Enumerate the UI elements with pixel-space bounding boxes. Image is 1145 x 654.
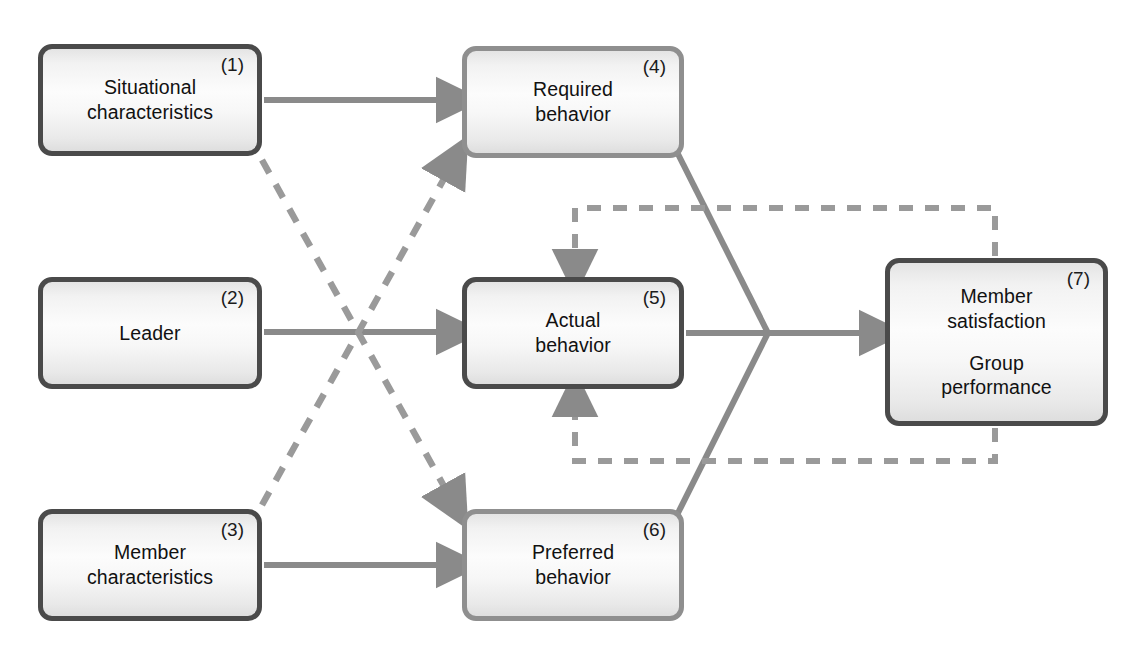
node-index-5: (5): [643, 288, 666, 307]
node-preferred-behavior[interactable]: (6) Preferred behavior: [462, 509, 684, 621]
edge-outcomes-to-actual-top-feedback: [575, 208, 995, 262]
leadership-model-diagram: (1) Situational characteristics (2) Lead…: [0, 0, 1145, 654]
edge-situational-to-preferred-dashed: [262, 160, 450, 497]
node-label-member-satisfaction: Member satisfaction: [947, 284, 1046, 334]
node-label-preferred-behavior: Preferred behavior: [532, 540, 614, 590]
node-outcomes[interactable]: (7) Member satisfaction Group performanc…: [885, 258, 1108, 426]
node-index-3: (3): [221, 520, 244, 539]
node-label-situational-characteristics: Situational characteristics: [87, 75, 213, 125]
node-leader[interactable]: (2) Leader: [38, 277, 262, 389]
node-label-actual-behavior: Actual behavior: [535, 308, 611, 358]
edge-required-to-junction: [677, 152, 768, 333]
node-index-7: (7): [1067, 269, 1090, 288]
node-required-behavior[interactable]: (4) Required behavior: [462, 46, 684, 158]
node-index-4: (4): [643, 57, 666, 76]
node-label-leader: Leader: [119, 321, 180, 346]
node-label-required-behavior: Required behavior: [533, 77, 613, 127]
node-actual-behavior[interactable]: (5) Actual behavior: [462, 277, 684, 389]
node-situational-characteristics[interactable]: (1) Situational characteristics: [38, 44, 262, 156]
edge-member-to-required-dashed: [262, 168, 450, 505]
node-label-group-performance: Group performance: [941, 351, 1052, 401]
node-label-member-characteristics: Member characteristics: [87, 540, 213, 590]
edge-preferred-to-junction: [677, 333, 768, 515]
node-index-1: (1): [221, 55, 244, 74]
node-index-2: (2): [221, 288, 244, 307]
node-member-characteristics[interactable]: (3) Member characteristics: [38, 509, 262, 621]
node-index-6: (6): [643, 520, 666, 539]
